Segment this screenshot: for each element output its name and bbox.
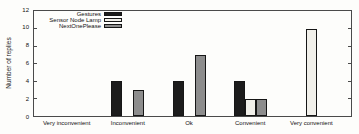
bar-gestures (234, 81, 245, 116)
legend-swatch (104, 18, 122, 22)
y-tick-label: 10 (0, 24, 29, 31)
y-tick-label: 4 (0, 78, 29, 85)
x-axis-label: Very convenient (266, 120, 356, 127)
y-tick-label: 12 (0, 7, 29, 14)
bar-gestures (173, 81, 184, 116)
bar-gestures (111, 81, 122, 116)
bar-chart-figure: Number of replies GesturesSensor Node La… (0, 0, 359, 134)
bar-sensor-node-lamp (245, 99, 256, 117)
legend-swatch (104, 24, 122, 28)
y-tick-mark (348, 63, 351, 64)
y-tick-mark (34, 98, 37, 99)
y-tick-label: 8 (0, 42, 29, 49)
bar-nextoneplease (133, 90, 144, 116)
y-tick-mark (348, 28, 351, 29)
y-tick-mark (34, 46, 37, 47)
legend-swatch (104, 12, 122, 16)
y-tick-mark (34, 81, 37, 82)
y-tick-label: 2 (0, 96, 29, 103)
y-tick-mark (348, 81, 351, 82)
bar-nextoneplease (256, 99, 267, 117)
y-tick-mark (34, 63, 37, 64)
legend-label: NextOnePlease (59, 23, 101, 29)
bar-sensor-node-lamp (306, 29, 317, 117)
y-tick-label: 6 (0, 60, 29, 67)
y-tick-mark (348, 98, 351, 99)
bar-nextoneplease (195, 55, 206, 116)
y-tick-mark (348, 46, 351, 47)
